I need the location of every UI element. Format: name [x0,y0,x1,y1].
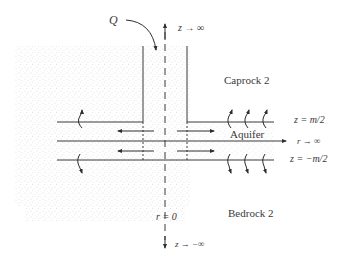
z-top-label: z → ∞ [177,22,204,33]
aquifer-label: Aquifer [230,128,265,140]
flow-rate-label: Q [109,13,118,27]
top-boundary-label: z = m/2 [293,114,325,125]
centerline-label: r = 0 [156,211,177,222]
r-axis-label: r → ∞ [297,136,320,146]
aquifer-injection-diagram: Q z → ∞ Caprock 2 z = m/2 Aquifer r → ∞ … [0,0,346,261]
stippled-rock-region [15,46,190,222]
bedrock-label: Bedrock 2 [228,207,274,219]
bottom-boundary-label: z = −m/2 [289,153,327,164]
injection-arrow-icon [126,20,156,50]
caprock-label: Caprock 2 [224,74,270,86]
z-bottom-label: z → −∞ [174,239,205,249]
